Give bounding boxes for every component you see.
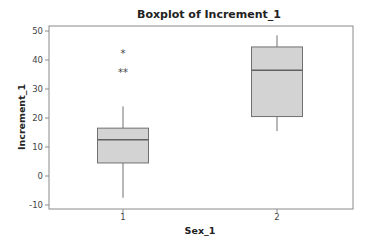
outlier-marker: * <box>121 48 126 59</box>
y-tick-label: 10 <box>32 142 43 152</box>
box-2 <box>252 35 303 131</box>
y-axis: -1001020304050 <box>29 26 49 210</box>
x-tick-label: 1 <box>120 212 125 222</box>
y-tick-label: 40 <box>32 55 43 65</box>
x-tick-label: 2 <box>274 212 279 222</box>
y-tick-label: -10 <box>29 200 43 210</box>
iqr-box <box>252 47 303 117</box>
y-axis-label: Increment_1 <box>16 84 27 150</box>
chart-title: Boxplot of Increment_1 <box>137 8 281 21</box>
outlier-marker: * <box>123 67 128 78</box>
boxplot-chart: Boxplot of Increment_1 -1001020304050 12… <box>0 0 369 244</box>
y-tick-label: 30 <box>32 84 43 94</box>
y-tick-label: 0 <box>38 171 43 181</box>
y-tick-label: 50 <box>32 26 43 36</box>
iqr-box <box>98 128 149 163</box>
y-tick-label: 20 <box>32 113 43 123</box>
x-axis: 12 <box>120 209 279 222</box>
plot-frame <box>49 26 353 209</box>
x-axis-label: Sex_1 <box>185 225 216 236</box>
